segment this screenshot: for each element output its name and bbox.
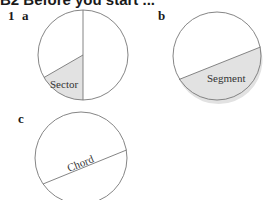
chord-figure: Chord xyxy=(35,112,127,200)
circle-parts-diagram: Sector Segment Chord xyxy=(0,0,264,200)
chord-label: Chord xyxy=(65,152,95,174)
sector-figure: Sector xyxy=(38,10,128,100)
sector-label: Sector xyxy=(50,78,78,90)
segment-label: Segment xyxy=(207,72,246,84)
segment-figure: Segment xyxy=(173,12,263,104)
